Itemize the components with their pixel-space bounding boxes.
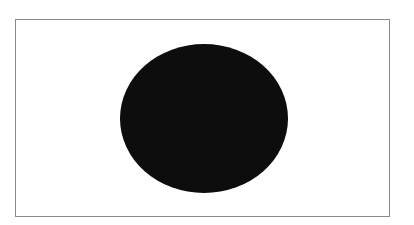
black-circle-shape [120,44,288,193]
diagram-canvas [0,0,414,225]
